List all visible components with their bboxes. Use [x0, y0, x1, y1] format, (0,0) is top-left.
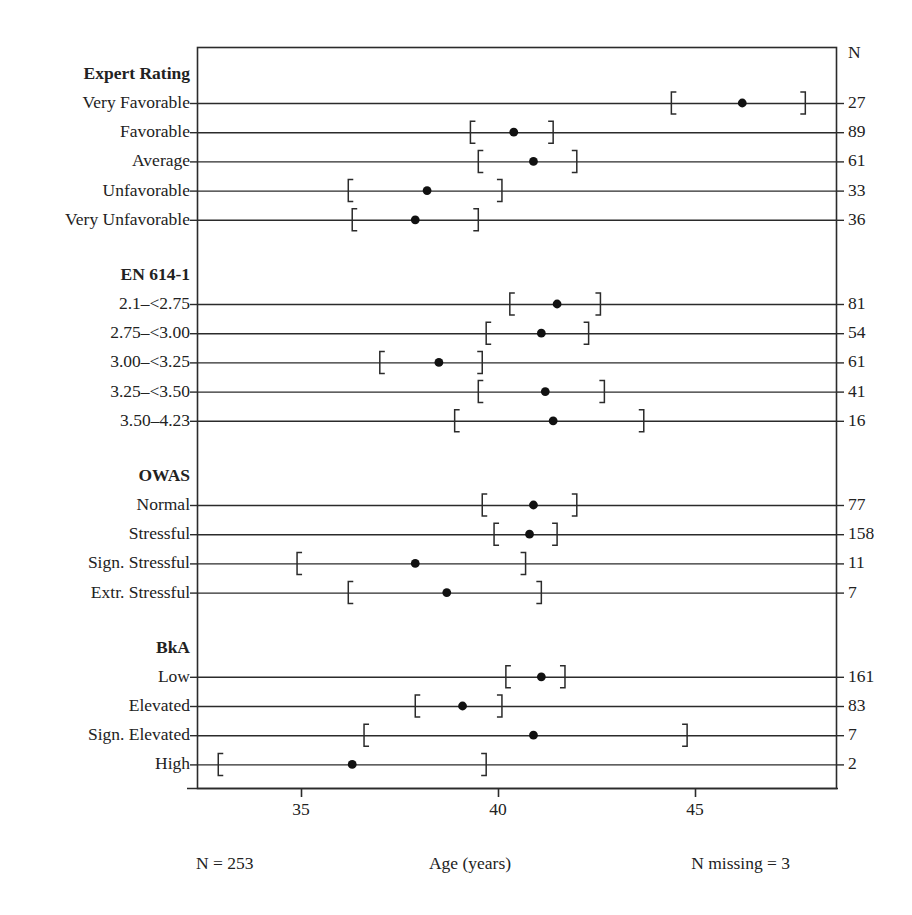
- row-label: High: [155, 756, 190, 774]
- row-n-value: 61: [848, 354, 866, 372]
- row-n-value: 2: [848, 756, 857, 774]
- x-axis-tick-label: 35: [292, 801, 310, 819]
- row-label: Sign. Elevated: [88, 726, 190, 744]
- row-label: 3.25–<3.50: [110, 383, 190, 401]
- row-n-value: 7: [848, 584, 857, 602]
- row-n-value: 81: [848, 295, 866, 313]
- row-n-value: 158: [848, 525, 874, 543]
- mean-point: [348, 760, 357, 769]
- mean-point: [423, 186, 432, 195]
- mean-point: [537, 329, 546, 338]
- row-label: Normal: [137, 496, 190, 514]
- mean-point: [442, 588, 451, 597]
- row-n-value: 11: [848, 555, 865, 573]
- row-n-value: 61: [848, 153, 866, 171]
- x-axis-title: Age (years): [429, 855, 511, 873]
- row-label: Average: [132, 153, 190, 171]
- row-n-value: 83: [848, 697, 866, 715]
- mean-point: [525, 530, 534, 539]
- forest-plot-figure: Expert RatingVery Favorable27Favorable89…: [0, 0, 912, 915]
- row-label: 3.00–<3.25: [110, 354, 190, 372]
- x-axis-tick-label: 40: [489, 801, 507, 819]
- row-n-value: 36: [848, 211, 866, 229]
- row-label: 2.75–<3.00: [110, 324, 190, 342]
- row-n-value: 41: [848, 383, 866, 401]
- row-label: Very Favorable: [83, 94, 190, 112]
- row-label: 2.1–<2.75: [119, 295, 190, 313]
- row-label: Favorable: [120, 123, 190, 141]
- mean-point: [435, 358, 444, 367]
- mean-point: [411, 215, 420, 224]
- row-label: Stressful: [129, 525, 190, 543]
- row-label: Extr. Stressful: [91, 584, 190, 602]
- x-axis-tick-label: 45: [686, 801, 704, 819]
- group-header-2: OWAS: [138, 467, 190, 485]
- row-n-value: 33: [848, 182, 866, 200]
- mean-point: [549, 416, 558, 425]
- footer-n-total: N = 253: [196, 855, 254, 873]
- row-n-value: 7: [848, 726, 857, 744]
- footer-n-missing: N missing = 3: [691, 855, 790, 873]
- row-label: Unfavorable: [103, 182, 190, 200]
- row-n-value: 16: [848, 412, 866, 430]
- row-label: Elevated: [129, 697, 190, 715]
- mean-point: [529, 731, 538, 740]
- row-n-value: 54: [848, 324, 866, 342]
- mean-point: [411, 559, 420, 568]
- row-label: Sign. Stressful: [88, 555, 190, 573]
- mean-point: [458, 702, 467, 711]
- row-n-value: 89: [848, 123, 866, 141]
- row-label: Very Unfavorable: [65, 211, 190, 229]
- n-column-header: N: [848, 44, 861, 62]
- group-header-3: BkA: [156, 639, 190, 657]
- row-label: 3.50–4.23: [120, 412, 190, 430]
- row-n-value: 161: [848, 668, 874, 686]
- row-n-value: 77: [848, 496, 866, 514]
- mean-point: [541, 387, 550, 396]
- mean-point: [537, 672, 546, 681]
- mean-point: [529, 157, 538, 166]
- mean-point: [509, 128, 518, 137]
- row-n-value: 27: [848, 94, 866, 112]
- mean-point: [738, 99, 747, 108]
- row-label: Low: [158, 668, 190, 686]
- mean-point: [529, 501, 538, 510]
- group-header-0: Expert Rating: [84, 65, 190, 83]
- group-header-1: EN 614-1: [120, 266, 190, 284]
- mean-point: [553, 300, 562, 309]
